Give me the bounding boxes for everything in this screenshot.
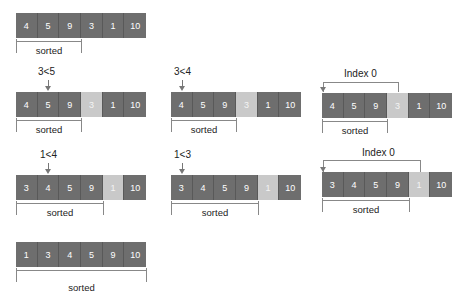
array-cell: 3 — [81, 13, 103, 38]
array-cell-current: 3 — [387, 93, 409, 118]
array-cell: 5 — [193, 92, 215, 117]
array-cell: 4 — [344, 172, 366, 197]
array-cell: 10 — [124, 92, 146, 117]
array-cell-current: 1 — [103, 175, 125, 200]
sorted-label: sorted — [16, 124, 82, 135]
array-cell: 5 — [365, 172, 387, 197]
index-label: Index 0 — [362, 147, 395, 158]
array-cell: 9 — [59, 92, 81, 117]
comparison-label: 3<4 — [174, 66, 191, 77]
arrow-down-icon — [179, 169, 185, 174]
array-cell: 1 — [16, 242, 38, 267]
arrow-down-icon — [179, 86, 185, 91]
array-cell: 4 — [16, 92, 38, 117]
insert-bracket — [323, 160, 421, 172]
array-cell: 4 — [322, 93, 344, 118]
array-cell: 10 — [124, 242, 146, 267]
array-final: 1 3 4 5 9 10 — [16, 242, 146, 267]
array-cell: 9 — [103, 242, 125, 267]
array-cell: 1 — [409, 93, 431, 118]
insert-bracket — [323, 82, 399, 92]
array-cell: 4 — [171, 92, 193, 117]
array-cell: 5 — [59, 175, 81, 200]
array-cell: 10 — [124, 175, 146, 200]
array-cell: 4 — [193, 175, 215, 200]
array-cell-current: 1 — [258, 175, 280, 200]
array-cell: 1 — [103, 92, 125, 117]
arrow-down-icon — [45, 169, 51, 174]
array-cell: 10 — [279, 175, 301, 200]
array-cell-current: 3 — [81, 92, 103, 117]
array-cell: 10 — [279, 92, 301, 117]
arrow-down-icon — [320, 87, 326, 92]
array-cell: 10 — [430, 93, 452, 118]
array-cell-current: 1 — [409, 172, 431, 197]
array-initial: 4 5 9 3 1 10 — [16, 13, 146, 38]
array-cell: 4 — [59, 242, 81, 267]
array-cell: 10 — [124, 13, 146, 38]
array-cell: 9 — [236, 175, 258, 200]
sorted-label: sorted — [322, 125, 388, 136]
array-step-6: 3 4 5 9 1 10 — [322, 172, 452, 197]
array-cell: 3 — [322, 172, 344, 197]
array-cell: 5 — [38, 13, 60, 38]
array-step-4: 3 4 5 9 1 10 — [16, 175, 146, 200]
sorted-label: sorted — [16, 207, 104, 218]
array-cell: 1 — [103, 13, 125, 38]
comparison-label: 1<4 — [40, 149, 57, 160]
array-step-5: 3 4 5 9 1 10 — [171, 175, 301, 200]
sorted-label: sorted — [171, 207, 259, 218]
array-step-2: 4 5 9 3 1 10 — [171, 92, 301, 117]
array-step-1: 4 5 9 3 1 10 — [16, 92, 146, 117]
array-cell: 3 — [38, 242, 60, 267]
array-cell: 5 — [38, 92, 60, 117]
array-cell: 9 — [214, 92, 236, 117]
array-cell: 5 — [214, 175, 236, 200]
comparison-label: 3<5 — [38, 66, 55, 77]
array-cell: 10 — [430, 172, 452, 197]
array-cell: 4 — [38, 175, 60, 200]
array-cell: 9 — [59, 13, 81, 38]
array-cell-current: 3 — [236, 92, 258, 117]
array-cell: 1 — [258, 92, 280, 117]
array-cell: 5 — [81, 242, 103, 267]
array-cell: 5 — [344, 93, 366, 118]
sorted-label: sorted — [16, 282, 147, 293]
array-cell: 4 — [16, 13, 38, 38]
sorted-bracket — [16, 268, 147, 282]
array-step-3: 4 5 9 3 1 10 — [322, 93, 452, 118]
sorted-label: sorted — [322, 204, 410, 215]
array-cell: 9 — [81, 175, 103, 200]
arrow-down-icon — [45, 86, 51, 91]
array-cell: 3 — [16, 175, 38, 200]
sorted-label: sorted — [171, 124, 237, 135]
array-cell: 3 — [171, 175, 193, 200]
comparison-label: 1<3 — [174, 149, 191, 160]
array-cell: 9 — [365, 93, 387, 118]
index-label: Index 0 — [344, 68, 377, 79]
sorted-label: sorted — [16, 45, 82, 56]
array-cell: 9 — [387, 172, 409, 197]
